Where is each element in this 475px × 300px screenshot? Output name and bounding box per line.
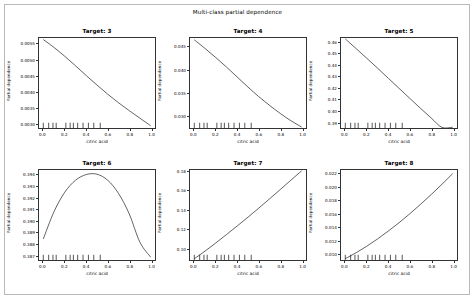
figure-title: Multi-class partial dependence xyxy=(0,9,475,15)
figure-border xyxy=(4,4,470,295)
figure-canvas: Multi-class partial dependence Target: 3… xyxy=(0,0,475,300)
